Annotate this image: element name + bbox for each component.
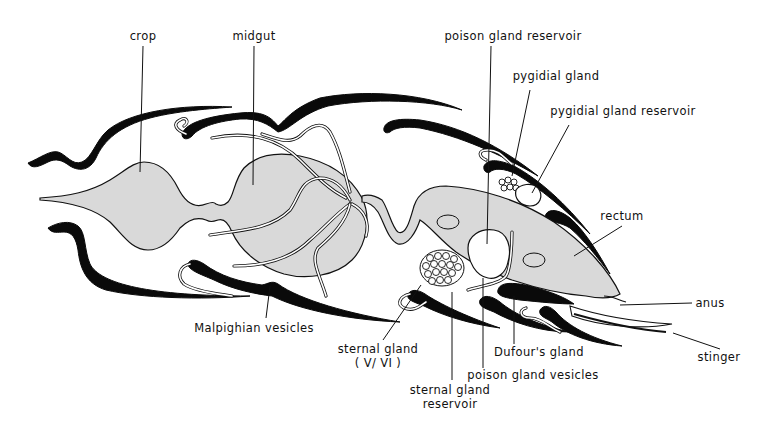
leader-anus [620, 303, 692, 305]
label-sternal-gland-reservoir-line2: reservoir [423, 397, 478, 411]
label-sternal-gland: sternal gland [338, 342, 419, 356]
label-pygidial-gland-reservoir: pygidial gland reservoir [550, 104, 696, 118]
sternal-gland-cells [420, 250, 464, 286]
label-poison-gland-vesicles: poison gland vesicles [467, 368, 598, 382]
tergite-2 [182, 94, 462, 139]
label-malpighian-vesicles: Malpighian vesicles [194, 321, 314, 335]
label-stinger: stinger [698, 350, 741, 364]
leader-stinger [673, 333, 720, 349]
label-dufours-gland: Dufour's gland [494, 345, 584, 359]
leader-sternal-gland [383, 285, 421, 340]
label-poison-gland-reservoir: poison gland reservoir [444, 29, 581, 43]
pygidial-reservoir-organ [516, 184, 541, 206]
label-crop: crop [130, 29, 157, 43]
gaster-anatomy-diagram: crop midgut poison gland reservoir pygid… [0, 0, 767, 434]
stinger-organ [570, 296, 672, 332]
label-midgut: midgut [232, 29, 275, 43]
leader-crop [140, 46, 143, 172]
label-sternal-gland-reservoir: sternal gland [410, 383, 491, 397]
label-pygidial-gland: pygidial gland [513, 69, 600, 83]
label-sternal-gland-segments: ( V/ VI ) [355, 356, 402, 370]
label-anus: anus [695, 296, 724, 310]
label-rectum: rectum [600, 209, 643, 223]
crop [40, 154, 367, 276]
leader-pygidial-gland-reservoir [532, 125, 569, 193]
poison-gland-reservoir-organ [468, 230, 509, 279]
tergite-1 [28, 106, 232, 169]
